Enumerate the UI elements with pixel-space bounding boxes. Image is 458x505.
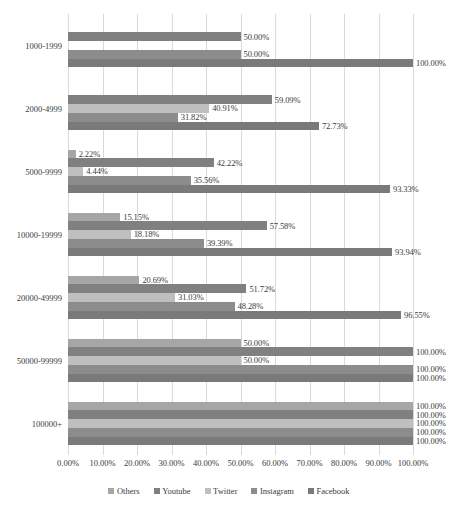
bar-row: 93.33% bbox=[68, 185, 413, 194]
bar-others[interactable] bbox=[68, 339, 241, 348]
x-axis-tick-label: 80.00% bbox=[331, 458, 357, 468]
bar-instagram[interactable] bbox=[68, 428, 413, 437]
bar-facebook[interactable] bbox=[68, 248, 392, 257]
bar-row: 35.56% bbox=[68, 176, 413, 185]
bar-facebook[interactable] bbox=[68, 122, 319, 131]
bar-group: 15.15%57.58%18.18%39.39%93.94% bbox=[68, 213, 413, 256]
bar-instagram[interactable] bbox=[68, 50, 241, 59]
bar-row: 100.00% bbox=[68, 374, 413, 383]
x-axis-tick-label: 40.00% bbox=[193, 458, 219, 468]
bar-row: 59.09% bbox=[68, 95, 413, 104]
bar-youtube[interactable] bbox=[68, 284, 246, 293]
bar-value-label: 100.00% bbox=[413, 373, 446, 383]
bar-row: 100.00% bbox=[68, 59, 413, 68]
social-media-usage-bar-chart: 50.00%50.00%100.00%59.09%40.91%31.82%72.… bbox=[0, 0, 458, 505]
bar-value-label: 93.94% bbox=[392, 247, 421, 257]
x-axis-tick-label: 0.00% bbox=[57, 458, 79, 468]
bar-value-label: 100.00% bbox=[413, 58, 446, 68]
bar-instagram[interactable] bbox=[68, 365, 413, 374]
bar-group: 100.00%100.00%100.00%100.00%100.00% bbox=[68, 402, 413, 445]
bar-row: 50.00% bbox=[68, 32, 413, 41]
x-axis-tick-label: 30.00% bbox=[158, 458, 184, 468]
bar-facebook[interactable] bbox=[68, 311, 401, 320]
bar-instagram[interactable] bbox=[68, 113, 178, 122]
bar-group: 50.00%100.00%50.00%100.00%100.00% bbox=[68, 339, 413, 382]
legend-item-youtube[interactable]: Youtube bbox=[154, 486, 191, 496]
bar-twitter[interactable] bbox=[68, 356, 241, 365]
bar-row: 72.73% bbox=[68, 122, 413, 131]
bar-value-label: 93.33% bbox=[390, 184, 419, 194]
bar-row: 100.00% bbox=[68, 365, 413, 374]
bar-group: 20.69%51.72%31.03%48.28%96.55% bbox=[68, 276, 413, 319]
bar-row: 100.00% bbox=[68, 402, 413, 411]
plot-area: 50.00%50.00%100.00%59.09%40.91%31.82%72.… bbox=[68, 14, 413, 455]
bar-row: 39.39% bbox=[68, 239, 413, 248]
y-axis-label: 1000-1999 bbox=[25, 41, 62, 51]
y-axis-label: 20000-49999 bbox=[17, 293, 62, 303]
bar-row bbox=[68, 87, 413, 96]
legend-item-instagram[interactable]: Instagram bbox=[251, 486, 294, 496]
bar-row: 40.91% bbox=[68, 104, 413, 113]
bar-row: 50.00% bbox=[68, 50, 413, 59]
legend-item-facebook[interactable]: Facebook bbox=[308, 486, 350, 496]
x-axis-tick-label: 50.00% bbox=[227, 458, 253, 468]
bar-row: 57.58% bbox=[68, 221, 413, 230]
x-axis-tick-label: 100.00% bbox=[398, 458, 428, 468]
legend-item-twitter[interactable]: Twitter bbox=[205, 486, 238, 496]
bar-row: 20.69% bbox=[68, 276, 413, 285]
legend-swatch-icon bbox=[108, 488, 114, 494]
legend-label: Instagram bbox=[260, 486, 294, 496]
bar-facebook[interactable] bbox=[68, 185, 390, 194]
bar-others[interactable] bbox=[68, 276, 139, 285]
bar-value-label: 100.00% bbox=[413, 436, 446, 446]
bar-group: 50.00%50.00%100.00% bbox=[68, 24, 413, 67]
legend-item-others[interactable]: Others bbox=[108, 486, 139, 496]
bar-row: 100.00% bbox=[68, 410, 413, 419]
bar-twitter[interactable] bbox=[68, 230, 131, 239]
x-axis-tick-label: 90.00% bbox=[365, 458, 391, 468]
legend-swatch-icon bbox=[205, 488, 211, 494]
y-axis-label: 50000-99999 bbox=[17, 356, 62, 366]
bar-twitter[interactable] bbox=[68, 293, 175, 302]
bar-group: 59.09%40.91%31.82%72.73% bbox=[68, 87, 413, 130]
bar-row: 100.00% bbox=[68, 419, 413, 428]
bar-youtube[interactable] bbox=[68, 95, 272, 104]
bar-instagram[interactable] bbox=[68, 302, 235, 311]
gridline bbox=[413, 14, 414, 455]
bar-row: 15.15% bbox=[68, 213, 413, 222]
legend-label: Twitter bbox=[213, 486, 237, 496]
bar-row: 31.82% bbox=[68, 113, 413, 122]
x-axis-tick-label: 10.00% bbox=[89, 458, 115, 468]
bar-facebook[interactable] bbox=[68, 437, 413, 446]
legend-swatch-icon bbox=[251, 488, 257, 494]
bar-row: 100.00% bbox=[68, 437, 413, 446]
bar-facebook[interactable] bbox=[68, 59, 413, 68]
bar-youtube[interactable] bbox=[68, 32, 241, 41]
bar-instagram[interactable] bbox=[68, 176, 191, 185]
bar-others[interactable] bbox=[68, 402, 413, 411]
bar-row: 18.18% bbox=[68, 230, 413, 239]
y-axis-label: 100000+ bbox=[32, 419, 62, 429]
bar-row: 4.44% bbox=[68, 167, 413, 176]
bar-twitter[interactable] bbox=[68, 167, 83, 176]
bar-instagram[interactable] bbox=[68, 239, 204, 248]
bar-youtube[interactable] bbox=[68, 410, 413, 419]
bar-value-label: 72.73% bbox=[319, 121, 348, 131]
x-axis-tick-labels: 0.00%10.00%20.00%30.00%40.00%50.00%60.00… bbox=[68, 455, 413, 473]
bar-others[interactable] bbox=[68, 150, 76, 159]
bar-row: 50.00% bbox=[68, 339, 413, 348]
bar-row: 51.72% bbox=[68, 284, 413, 293]
bar-row: 50.00% bbox=[68, 356, 413, 365]
y-axis-label: 10000-19999 bbox=[17, 230, 62, 240]
bar-row: 100.00% bbox=[68, 428, 413, 437]
x-axis-tick-label: 70.00% bbox=[296, 458, 322, 468]
bar-twitter[interactable] bbox=[68, 419, 413, 428]
bar-youtube[interactable] bbox=[68, 221, 267, 230]
x-axis-tick-label: 20.00% bbox=[124, 458, 150, 468]
y-axis-label: 2000-4999 bbox=[25, 104, 62, 114]
bar-row: 96.55% bbox=[68, 311, 413, 320]
bar-others[interactable] bbox=[68, 213, 120, 222]
legend-label: Others bbox=[117, 486, 140, 496]
legend-label: Youtube bbox=[162, 486, 190, 496]
bar-facebook[interactable] bbox=[68, 374, 413, 383]
